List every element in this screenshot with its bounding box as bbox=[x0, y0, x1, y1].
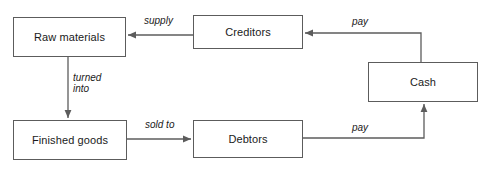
node-cash: Cash bbox=[368, 62, 478, 102]
node-debtors: Debtors bbox=[193, 120, 303, 158]
node-creditors-label: Creditors bbox=[225, 27, 271, 38]
working-capital-cycle-diagram: Raw materials Creditors Cash Finished go… bbox=[0, 0, 492, 176]
edge-label-pay-top: pay bbox=[352, 16, 368, 27]
node-raw-materials-label: Raw materials bbox=[34, 32, 105, 43]
edge-label-pay-bottom: pay bbox=[352, 122, 368, 133]
node-debtors-label: Debtors bbox=[228, 134, 267, 145]
node-creditors: Creditors bbox=[193, 15, 303, 49]
node-cash-label: Cash bbox=[410, 77, 436, 88]
node-raw-materials: Raw materials bbox=[13, 17, 126, 57]
node-finished-goods: Finished goods bbox=[13, 120, 127, 160]
edge-label-sold-to: sold to bbox=[145, 119, 174, 130]
edge-pay-top-line bbox=[305, 33, 421, 62]
edge-label-turned-into: turned into bbox=[73, 72, 101, 94]
node-finished-goods-label: Finished goods bbox=[32, 135, 108, 146]
edge-label-supply: supply bbox=[144, 15, 173, 26]
